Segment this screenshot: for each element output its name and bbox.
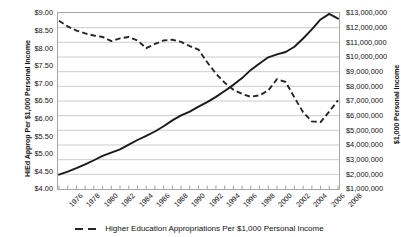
right-axis-tick-label: $5,000,000 [346, 127, 383, 134]
x-axis-tick-label: 1984 [137, 192, 153, 208]
left-axis-tick-label: $5.50 [35, 133, 54, 140]
left-axis-tick-label: $6.00 [35, 115, 54, 122]
right-axis-tick-label: $7,000,000 [346, 97, 383, 104]
right-axis-tick-label: $13,000,000 [346, 9, 387, 16]
series-line-personal-income [59, 14, 338, 175]
x-axis-tick-label: 2006 [329, 192, 345, 208]
x-axis-tick-label: 2002 [294, 192, 310, 208]
left-axis-tick-labels: $9.00$8.50$8.00$7.50$7.00$6.50$6.00$5.50… [14, 0, 56, 198]
x-axis-tick-label: 1988 [172, 192, 188, 208]
left-axis-tick-label: $7.50 [35, 62, 54, 69]
left-axis-tick-label: $9.00 [35, 9, 54, 16]
x-axis-tick-label: 1976 [68, 192, 84, 208]
right-axis-tick-label: $11,000,000 [346, 39, 387, 46]
right-axis-tick-label: $9,000,000 [346, 68, 383, 75]
right-axis-tick-label: $6,000,000 [346, 112, 383, 119]
x-axis-tick-labels: 1976197819801982198419861988199019921994… [57, 192, 340, 222]
x-axis-tick-label: 1994 [225, 192, 241, 208]
right-axis-tick-label: $3,000,000 [346, 156, 383, 163]
x-axis-tick-label: 1986 [155, 192, 171, 208]
x-axis-tick-label: 1990 [190, 192, 206, 208]
x-axis-tick-label: 1980 [103, 192, 119, 208]
left-axis-tick-label: $8.00 [35, 45, 54, 52]
right-axis-tick-label: $1,000,000 [346, 185, 383, 192]
x-axis-tick-label: 1992 [207, 192, 223, 208]
x-axis-tick-label: 2004 [312, 192, 328, 208]
legend-label: Higher Education Appropriations Per $1,0… [105, 224, 323, 233]
left-axis-tick-label: $4.00 [35, 185, 54, 192]
legend-dash-swatch [74, 225, 100, 233]
left-axis-tick-label: $8.50 [35, 27, 54, 34]
right-axis-tick-label: $10,000,000 [346, 53, 387, 60]
left-axis-tick-label: $7.00 [35, 80, 54, 87]
right-axis-tick-label: $12,000,000 [346, 24, 387, 31]
right-axis-tick-label: $4,000,000 [346, 141, 383, 148]
x-axis-tick-marks [59, 186, 338, 190]
left-axis-tick-label: $4.50 [35, 168, 54, 175]
left-axis-tick-label: $5.00 [35, 150, 54, 157]
x-axis-tick-label: 1978 [85, 192, 101, 208]
x-axis-tick-label: 1996 [242, 192, 258, 208]
right-axis-tick-label: $8,000,000 [346, 83, 383, 90]
right-axis-tick-label: $2,000,000 [346, 171, 383, 178]
x-axis-tick-label: 1998 [259, 192, 275, 208]
x-axis-tick-label: 1982 [120, 192, 136, 208]
x-axis-tick-label: 2000 [277, 192, 293, 208]
plot-svg [58, 13, 339, 189]
chart-legend: Higher Education Appropriations Per $1,0… [0, 220, 398, 237]
left-axis-tick-label: $6.50 [35, 97, 54, 104]
right-axis-tick-labels: $13,000,000$12,000,000$11,000,000$10,000… [342, 0, 398, 198]
plot-area [57, 12, 340, 190]
